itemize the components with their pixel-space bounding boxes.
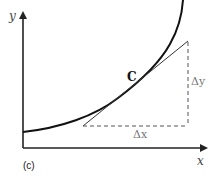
delta-y-label: Δy — [191, 75, 206, 88]
y-axis-label: y — [8, 9, 16, 23]
delta-x-label: Δx — [133, 128, 148, 141]
curve — [23, 0, 183, 132]
panel-label: (c) — [23, 160, 35, 171]
point-c-label: C — [127, 70, 137, 84]
tangent-slope-diagram: C Δy Δx x y (c) — [0, 0, 216, 178]
diagram-canvas: C Δy Δx x y (c) — [0, 0, 216, 178]
x-axis-label: x — [197, 154, 204, 168]
